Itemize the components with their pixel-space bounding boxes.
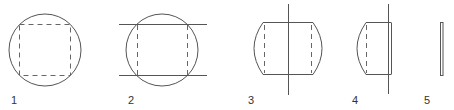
figure-4-label: 4 — [352, 94, 358, 106]
diagram-canvas: 1 2 3 4 — [0, 0, 454, 110]
figure-2-label: 2 — [128, 94, 134, 106]
figure-4: 4 — [352, 4, 392, 106]
figure-5-label: 5 — [424, 94, 430, 106]
figure-1-dashed-square — [20, 25, 71, 76]
figure-1: 1 — [9, 14, 81, 106]
diagram-svg: 1 2 3 4 — [0, 0, 454, 110]
figure-3-right-arc — [313, 23, 322, 75]
figure-3: 3 — [248, 4, 322, 106]
figure-2: 2 — [119, 14, 207, 106]
figure-5-slab — [441, 23, 444, 76]
figure-3-label: 3 — [248, 94, 254, 106]
figure-3-left-arc — [254, 23, 263, 75]
figure-4-left-arc — [357, 23, 366, 75]
figure-1-label: 1 — [11, 94, 17, 106]
figure-5: 5 — [424, 23, 443, 107]
